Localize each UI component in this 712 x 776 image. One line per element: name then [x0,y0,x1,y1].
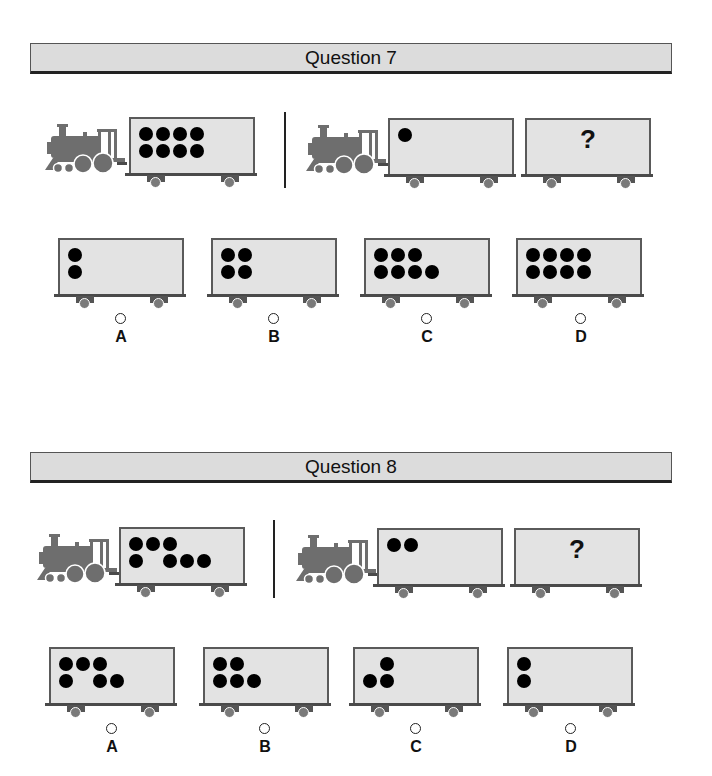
dot-icon [163,537,177,551]
dot-icon [387,538,401,552]
q8-option-d-radio[interactable] [565,723,576,734]
dot-icon [526,248,540,262]
q7-prompt-right-car-unknown: ? [525,118,651,191]
dot-icon [59,657,73,671]
wheel-icon [385,298,396,309]
dot-icon [190,127,204,141]
dot-icon [408,248,422,262]
dot-icon [221,248,235,262]
question-7-header: Question 7 [30,43,672,74]
dot-pattern [68,248,82,279]
dot-icon [76,657,90,671]
q7-prompt-left-car [129,117,255,190]
dot-icon [146,537,160,551]
dot-icon [156,127,170,141]
wheel-icon [224,707,235,718]
q8-option-a-car[interactable] [49,647,175,720]
question-mark: ? [525,124,651,155]
dot-icon [59,674,73,688]
dot-icon [139,144,153,158]
q8-option-a-label: A [97,738,127,756]
dot-icon [129,537,143,551]
car-body [377,528,503,586]
q8-option-b-car[interactable] [203,647,329,720]
q7-option-d-radio[interactable] [575,313,586,324]
dot-icon [190,144,204,158]
q8-prompt-left-car [119,527,245,600]
wheel-icon [472,588,483,599]
wheel-icon [620,178,631,189]
wheel-icon [409,178,420,189]
dot-icon [517,657,531,671]
q8-option-d-label: D [556,738,586,756]
q7-option-b-radio[interactable] [268,313,279,324]
q7-option-d-car[interactable] [516,238,642,311]
dot-icon [238,248,252,262]
dot-icon [577,248,591,262]
dot-icon [247,674,261,688]
wheel-icon [374,707,385,718]
wheel-icon [224,177,235,188]
q7-option-a-car[interactable] [58,238,184,311]
wheel-icon [537,298,548,309]
question-mark: ? [514,534,640,565]
dot-icon [560,248,574,262]
dot-icon [374,248,388,262]
dot-pattern [59,657,124,688]
dot-icon [180,554,194,568]
dot-icon [156,144,170,158]
dot-icon [560,265,574,279]
wheel-icon [483,178,494,189]
dot-icon [543,265,557,279]
dot-icon [129,554,143,568]
wheel-icon [150,177,161,188]
wheel-icon [214,587,225,598]
q7-option-d-label: D [566,328,596,346]
steam-locomotive-icon [37,530,119,586]
q7-option-c-car[interactable] [364,238,490,311]
dot-pattern [139,127,204,158]
dot-icon [238,265,252,279]
dot-pattern [363,657,394,688]
q8-option-d-car[interactable] [507,647,633,720]
dot-icon [213,657,227,671]
q7-option-b-label: B [259,328,289,346]
q8-prompt-right-car-1 [377,528,503,601]
q8-option-c-car[interactable] [353,647,479,720]
dot-icon [380,674,394,688]
q8-prompt-right-car-unknown: ? [514,528,640,601]
wheel-icon [153,298,164,309]
dot-gap [363,657,377,671]
q8-option-c-radio[interactable] [410,723,421,734]
dot-gap [76,674,90,688]
q8-option-a-radio[interactable] [106,723,117,734]
q7-prompt-right-car-1 [388,118,514,191]
q7-option-c-radio[interactable] [421,313,432,324]
wheel-icon [232,298,243,309]
dot-icon [543,248,557,262]
dot-icon [221,265,235,279]
dot-pattern [526,248,591,279]
dot-icon [68,248,82,262]
dot-pattern [517,657,531,688]
car-body [388,118,514,176]
wheel-icon [79,298,90,309]
q7-option-b-car[interactable] [211,238,337,311]
dot-icon [577,265,591,279]
dot-icon [139,127,153,141]
wheel-icon [298,707,309,718]
question-8-title: Question 8 [305,456,397,477]
dot-icon [391,248,405,262]
dot-icon [391,265,405,279]
dot-icon [526,265,540,279]
q8-option-b-radio[interactable] [259,723,270,734]
wheel-icon [602,707,613,718]
q7-divider [284,112,286,188]
dot-icon [163,554,177,568]
dot-icon [374,265,388,279]
wheel-icon [448,707,459,718]
dot-icon [93,657,107,671]
q7-option-a-radio[interactable] [115,313,126,324]
dot-pattern [374,248,439,279]
dot-icon [110,674,124,688]
